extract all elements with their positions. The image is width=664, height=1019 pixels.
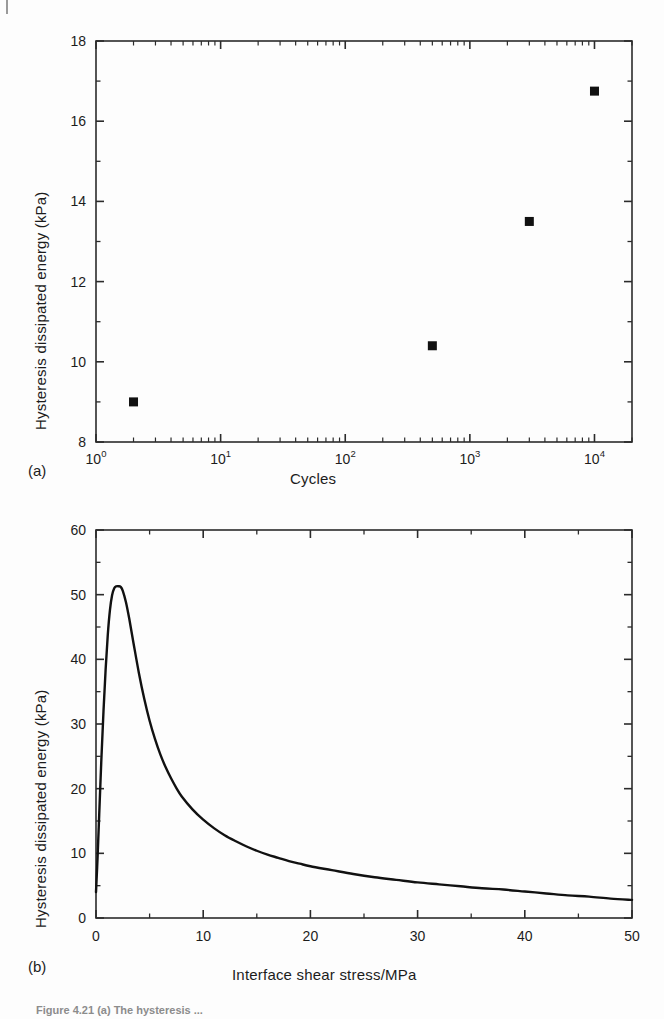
y-tick-label-a: 14 — [70, 193, 86, 209]
y-tick-label-b: 20 — [70, 781, 86, 797]
figure-page: 81012141618100101102103104 Cycles Hyster… — [0, 0, 664, 1019]
y-tick-label-a: 16 — [70, 113, 86, 129]
x-tick-exponent-a: 3 — [475, 448, 480, 459]
y-tick-label-b: 50 — [70, 587, 86, 603]
y-tick-label-a: 10 — [70, 354, 86, 370]
plot-frame-a — [96, 41, 632, 442]
x-axis-title-b: Interface shear stress/MPa — [232, 966, 416, 983]
data-point-marker — [525, 217, 534, 226]
scatter-plot-cycles: 81012141618100101102103104 — [0, 0, 664, 500]
x-tick-label-b: 30 — [410, 928, 426, 944]
y-axis-title-a: Hysteresis dissipated energy (kPa) — [32, 191, 49, 430]
y-tick-label-a: 8 — [78, 434, 86, 450]
x-tick-label-a: 101 — [210, 448, 231, 467]
x-axis-title-a: Cycles — [290, 470, 336, 487]
x-tick-label-b: 20 — [303, 928, 319, 944]
y-tick-label-a: 18 — [70, 33, 86, 49]
x-tick-label-b: 0 — [92, 928, 100, 944]
x-tick-exponent-a: 1 — [226, 448, 231, 459]
plot-frame-b — [96, 530, 632, 918]
y-tick-label-b: 0 — [78, 910, 86, 926]
x-tick-label-b: 40 — [517, 928, 533, 944]
x-tick-label-a: 100 — [86, 448, 107, 467]
x-tick-exponent-a: 2 — [350, 448, 355, 459]
data-point-marker — [428, 341, 437, 350]
chart-panel-a: 81012141618100101102103104 Cycles Hyster… — [0, 0, 664, 500]
y-tick-label-b: 10 — [70, 845, 86, 861]
chart-panel-b: 010203040506001020304050 Interface shear… — [0, 500, 664, 1000]
line-plot-shear-stress: 010203040506001020304050 — [0, 500, 664, 970]
x-tick-label-a: 102 — [335, 448, 356, 467]
y-tick-label-b: 60 — [70, 522, 86, 538]
x-tick-label-a: 103 — [459, 448, 480, 467]
data-series-line — [96, 586, 632, 900]
x-tick-exponent-a: 4 — [600, 448, 605, 459]
data-point-marker — [590, 87, 599, 96]
y-tick-label-b: 30 — [70, 716, 86, 732]
x-tick-exponent-a: 0 — [101, 448, 106, 459]
panel-label-b: (b) — [28, 958, 46, 975]
x-tick-label-b: 50 — [624, 928, 640, 944]
y-axis-title-b: Hysteresis dissipated energy (kPa) — [32, 689, 49, 928]
x-tick-label-b: 10 — [195, 928, 211, 944]
y-tick-label-a: 12 — [70, 274, 86, 290]
y-tick-label-b: 40 — [70, 651, 86, 667]
x-tick-label-a: 104 — [584, 448, 605, 467]
data-point-marker — [129, 397, 138, 406]
figure-caption: Figure 4.21 (a) The hysteresis ... — [36, 1004, 636, 1016]
panel-label-a: (a) — [28, 462, 46, 479]
